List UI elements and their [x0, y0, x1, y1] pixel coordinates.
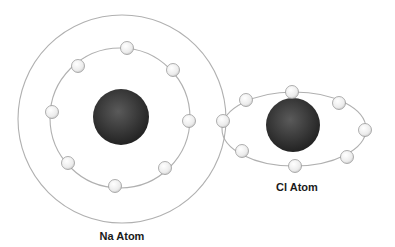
na-electron [62, 157, 75, 170]
atom-bonding-diagram [0, 0, 395, 247]
cl-electron [289, 160, 302, 173]
cl-electron [359, 124, 372, 137]
na-electron [183, 115, 196, 128]
na-atom-label: Na Atom [100, 230, 145, 242]
na-electron [121, 42, 134, 55]
cl-electron [240, 94, 253, 107]
na-electron [167, 64, 180, 77]
cl-electron [333, 97, 346, 110]
na-electron [46, 106, 59, 119]
na-electron [72, 60, 85, 73]
cl-electron [286, 86, 299, 99]
cl-nucleus [266, 98, 320, 152]
cl-atom [222, 86, 372, 173]
na-nucleus [93, 89, 149, 145]
na-electron [159, 162, 172, 175]
cl-electron [341, 151, 354, 164]
shared-electron [217, 115, 230, 128]
cl-atom-label: Cl Atom [276, 181, 318, 193]
na-atom [18, 15, 226, 223]
na-electron [109, 180, 122, 193]
shared-electron [217, 115, 230, 128]
cl-electron [236, 145, 249, 158]
